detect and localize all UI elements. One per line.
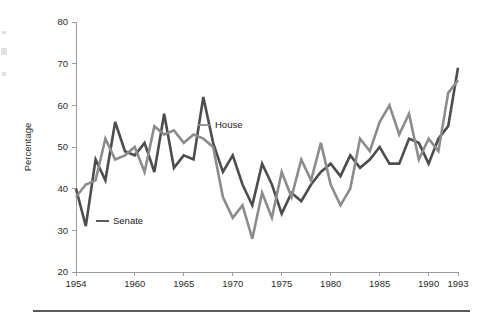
x-tick-label: 1965 bbox=[173, 278, 194, 289]
x-tick-label: 1970 bbox=[222, 278, 243, 289]
y-tick-label: 40 bbox=[57, 183, 68, 194]
x-tick-label: 1985 bbox=[369, 278, 390, 289]
y-axis-title: Percentage bbox=[22, 123, 33, 172]
y-tick-label: 20 bbox=[57, 266, 68, 277]
chart-background bbox=[0, 0, 484, 322]
y-tick-label: 80 bbox=[57, 16, 68, 27]
y-tick-label: 70 bbox=[57, 58, 68, 69]
x-tick-label: 1975 bbox=[271, 278, 292, 289]
x-tick-label: 1990 bbox=[418, 278, 439, 289]
annotation-label-house: House bbox=[215, 119, 242, 130]
x-tick-label: 1960 bbox=[124, 278, 145, 289]
x-tick-label: 1993 bbox=[447, 278, 468, 289]
x-tick-label: 1954 bbox=[65, 278, 86, 289]
chart-figure: 20304050607080 1954196019651970197519801… bbox=[0, 0, 484, 322]
y-tick-label: 60 bbox=[57, 100, 68, 111]
y-tick-label: 30 bbox=[57, 225, 68, 236]
y-tick-label: 50 bbox=[57, 141, 68, 152]
annotation-label-senate: Senate bbox=[113, 215, 143, 226]
x-tick-label: 1980 bbox=[320, 278, 341, 289]
